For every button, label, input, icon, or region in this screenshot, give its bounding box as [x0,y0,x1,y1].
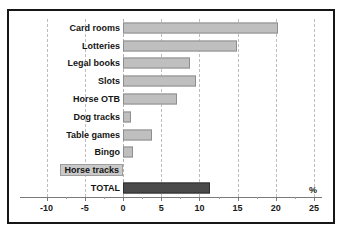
x-tick [161,197,162,201]
x-tick-minor [180,197,181,199]
category-label: Horse OTB [73,94,123,104]
bar [123,76,196,87]
x-tick-label: 0 [120,203,125,213]
x-tick-label: -5 [81,203,89,213]
chart-row: Bingo [20,144,322,162]
chart-row: TOTAL [20,179,322,197]
x-tick-minor [142,197,143,199]
x-tick [123,197,124,201]
x-axis-unit-label: % [309,185,317,195]
bar [123,40,237,51]
bar [123,94,177,105]
category-label: Dog tracks [73,112,123,122]
bar [123,129,152,140]
x-tick-label: 20 [271,203,281,213]
chart-row: Horse OTB [20,90,322,108]
bar [123,111,131,122]
x-tick [199,197,200,201]
x-tick-minor [257,197,258,199]
chart-row: Card rooms [20,19,322,37]
bar [123,183,210,194]
x-tick [47,197,48,201]
x-tick-label: 25 [309,203,319,213]
chart-row: Dog tracks [20,108,322,126]
plot-area: Card roomsLotteriesLegal booksSlotsHorse… [20,19,322,203]
bar [123,22,278,33]
category-label: Slots [98,76,123,86]
x-tick [238,197,239,201]
x-tick [85,197,86,201]
category-label: TOTAL [91,183,123,193]
category-label: Legal books [67,58,123,68]
chart-row: Lotteries [20,37,322,55]
x-tick-minor [104,197,105,199]
category-label: Card rooms [69,23,123,33]
bar [123,147,133,158]
chart-row: Horse tracks [20,161,322,179]
x-tick-label: 15 [233,203,243,213]
chart-row: Legal books [20,55,322,73]
bar [123,58,190,69]
x-tick [276,197,277,201]
x-tick-minor [66,197,67,199]
chart-row: Table games [20,126,322,144]
x-tick-label: 10 [194,203,204,213]
category-label: Lotteries [82,41,123,51]
chart-figure: Card roomsLotteriesLegal booksSlotsHorse… [0,0,344,235]
category-label: Horse tracks [60,164,123,176]
category-label: Bingo [95,147,124,157]
x-tick-label: 5 [159,203,164,213]
chart-row: Slots [20,72,322,90]
x-tick-label: -10 [40,203,53,213]
chart-frame: Card roomsLotteriesLegal booksSlotsHorse… [7,9,335,224]
x-tick-minor [219,197,220,199]
x-tick [314,197,315,201]
x-tick-minor [295,197,296,199]
category-label: Table games [66,130,123,140]
